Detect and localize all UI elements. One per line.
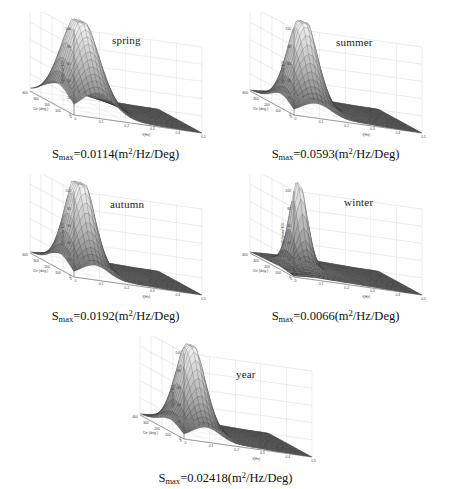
svg-text:100: 100 — [175, 351, 181, 355]
svg-text:20: 20 — [67, 258, 71, 262]
svg-text:0.2: 0.2 — [344, 124, 349, 128]
svg-text:0.3: 0.3 — [370, 127, 375, 131]
svg-text:0.1: 0.1 — [209, 444, 214, 448]
svg-text:0.3: 0.3 — [260, 451, 265, 455]
panel-year: 02040608010000.10.20.30.40.5010020030040… — [118, 336, 333, 489]
svg-text:0.5: 0.5 — [421, 297, 426, 301]
caption-unit-open: (m — [114, 147, 128, 161]
svg-text:S(f)/Smax*100: S(f)/Smax*100 — [171, 385, 175, 408]
season-label-spring: spring — [112, 34, 141, 46]
svg-text:0: 0 — [290, 277, 292, 281]
svg-text:0.2: 0.2 — [344, 286, 349, 290]
caption-subscript: max — [59, 152, 74, 162]
svg-text:80: 80 — [67, 207, 71, 211]
caption-unit-open: (m — [115, 309, 129, 323]
svg-text:0.1: 0.1 — [99, 282, 104, 286]
svg-text:Dir (deg.): Dir (deg.) — [33, 269, 48, 273]
caption-unit-open: (m — [335, 147, 349, 161]
caption-unit-close: /Hz/Deg) — [353, 147, 400, 161]
svg-text:f(Hz): f(Hz) — [253, 457, 261, 461]
svg-text:40: 40 — [287, 79, 291, 83]
caption-symbol: S — [52, 147, 59, 161]
svg-text:0.4: 0.4 — [286, 455, 291, 459]
svg-text:80: 80 — [287, 45, 291, 49]
caption-subscript: max — [59, 314, 74, 324]
svg-text:40: 40 — [287, 241, 291, 245]
surface-plot-autumn: 02040608010000.10.20.30.40.5010020030040… — [8, 174, 223, 314]
caption-subscript: max — [279, 314, 294, 324]
svg-text:80: 80 — [287, 207, 291, 211]
svg-text:40: 40 — [67, 79, 71, 83]
svg-text:0: 0 — [70, 115, 72, 119]
svg-text:0: 0 — [75, 117, 77, 121]
svg-text:0: 0 — [75, 279, 77, 283]
svg-text:80: 80 — [177, 369, 181, 373]
svg-text:40: 40 — [177, 403, 181, 407]
caption-autumn: Smax=0.0192(m2/Hz/Deg) — [8, 308, 223, 324]
svg-text:100: 100 — [285, 27, 291, 31]
caption-unit-open: (m — [228, 471, 242, 485]
svg-text:0: 0 — [295, 279, 297, 283]
season-label-summer: summer — [336, 36, 373, 48]
svg-text:0.4: 0.4 — [176, 131, 181, 135]
svg-text:Dir (deg.): Dir (deg.) — [253, 107, 268, 111]
svg-text:0: 0 — [185, 441, 187, 445]
svg-text:100: 100 — [55, 109, 61, 113]
svg-text:20: 20 — [287, 96, 291, 100]
svg-text:20: 20 — [67, 96, 71, 100]
caption-spring: Smax=0.0114(m2/Hz/Deg) — [8, 146, 223, 162]
svg-text:0.2: 0.2 — [124, 124, 129, 128]
svg-text:0.3: 0.3 — [370, 289, 375, 293]
svg-text:20: 20 — [177, 420, 181, 424]
svg-text:0.5: 0.5 — [201, 135, 206, 139]
svg-text:100: 100 — [275, 109, 281, 113]
svg-text:0.4: 0.4 — [176, 293, 181, 297]
svg-text:S(f)/Smax*100: S(f)/Smax*100 — [281, 223, 285, 246]
caption-symbol: S — [272, 309, 279, 323]
svg-text:0: 0 — [180, 439, 182, 443]
svg-text:0.3: 0.3 — [150, 289, 155, 293]
svg-text:Dir (deg.): Dir (deg.) — [33, 107, 48, 111]
svg-text:60: 60 — [67, 224, 71, 228]
svg-text:400: 400 — [22, 91, 28, 95]
svg-text:0.5: 0.5 — [201, 297, 206, 301]
svg-text:300: 300 — [253, 259, 259, 263]
svg-text:S(f)/Smax*100: S(f)/Smax*100 — [61, 61, 65, 84]
svg-text:80: 80 — [67, 45, 71, 49]
svg-text:100: 100 — [275, 271, 281, 275]
surface-plot-spring: 02040608010000.10.20.30.40.5010020030040… — [8, 12, 223, 152]
surface-plot-winter: 02040608010000.10.20.30.40.5010020030040… — [228, 174, 443, 314]
season-label-autumn: autumn — [110, 198, 144, 210]
svg-text:0.4: 0.4 — [396, 131, 401, 135]
svg-text:300: 300 — [143, 421, 149, 425]
svg-text:100: 100 — [55, 271, 61, 275]
caption-value: 0.0593 — [300, 147, 334, 161]
caption-equals: = — [73, 147, 80, 161]
panel-spring: 02040608010000.10.20.30.40.5010020030040… — [8, 12, 223, 184]
svg-text:300: 300 — [253, 97, 259, 101]
svg-text:0.1: 0.1 — [319, 282, 324, 286]
svg-text:0.2: 0.2 — [234, 448, 239, 452]
svg-text:20: 20 — [287, 258, 291, 262]
caption-unit-close: /Hz/Deg) — [133, 147, 180, 161]
svg-text:100: 100 — [65, 189, 71, 193]
panel-winter: 02040608010000.10.20.30.40.5010020030040… — [228, 174, 443, 346]
svg-text:60: 60 — [287, 224, 291, 228]
svg-text:400: 400 — [242, 91, 248, 95]
svg-text:0.4: 0.4 — [396, 293, 401, 297]
caption-year: Smax=0.02418(m2/Hz/Deg) — [118, 470, 333, 486]
svg-text:Dir (deg.): Dir (deg.) — [253, 269, 268, 273]
svg-text:f(Hz): f(Hz) — [143, 133, 151, 137]
svg-text:0: 0 — [290, 115, 292, 119]
svg-text:0.2: 0.2 — [124, 286, 129, 290]
caption-value: 0.0066 — [300, 309, 334, 323]
svg-text:0: 0 — [70, 277, 72, 281]
caption-symbol: S — [52, 309, 59, 323]
season-label-year: year — [236, 368, 256, 380]
caption-value: 0.0192 — [80, 309, 114, 323]
svg-text:0.3: 0.3 — [150, 127, 155, 131]
caption-unit-close: /Hz/Deg) — [133, 309, 180, 323]
surface-plot-summer: 02040608010000.10.20.30.40.5010020030040… — [228, 12, 443, 152]
svg-text:f(Hz): f(Hz) — [143, 295, 151, 299]
surface-plot-year: 02040608010000.10.20.30.40.5010020030040… — [118, 336, 333, 476]
